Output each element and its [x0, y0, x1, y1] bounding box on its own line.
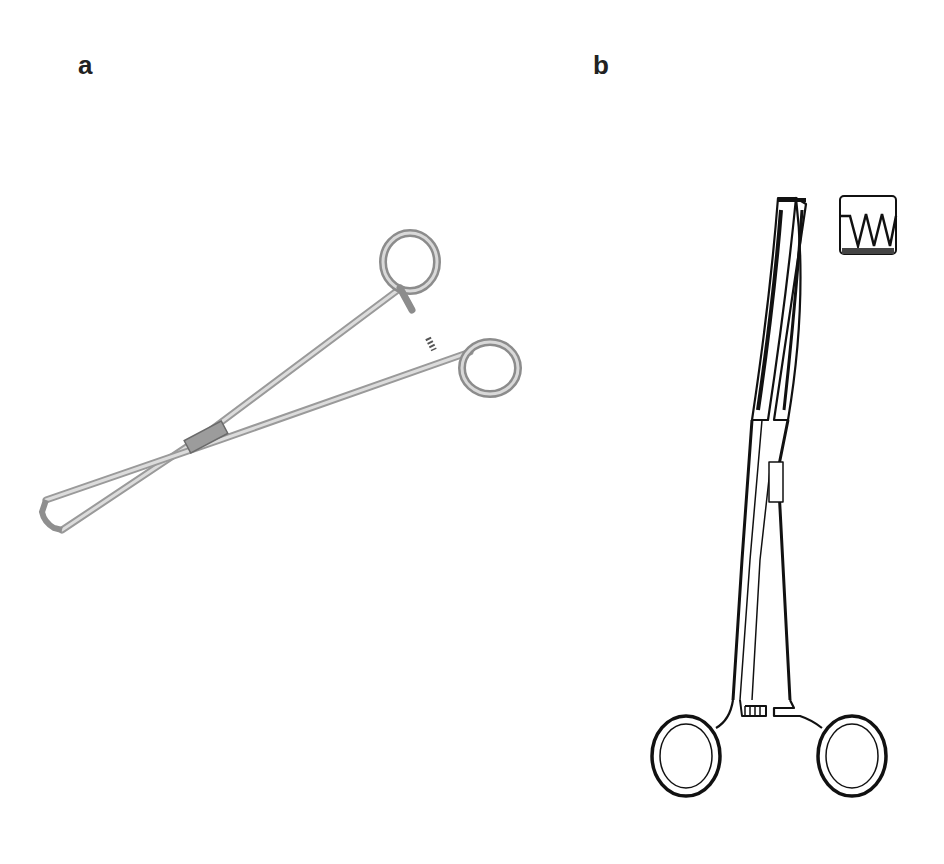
forceps-b-ring-left	[652, 716, 720, 796]
forceps-b-joint	[769, 462, 783, 502]
jaw-serration-inset	[840, 196, 896, 254]
forceps-b-ring-right	[818, 716, 886, 796]
forceps-drawing-b	[0, 0, 944, 864]
